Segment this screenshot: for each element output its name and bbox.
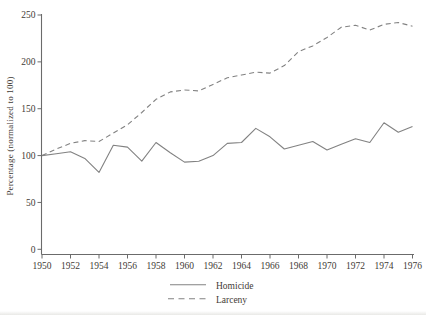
page-edge-artifact bbox=[0, 311, 426, 315]
y-tick-label: 50 bbox=[26, 198, 36, 208]
homicide-series-line bbox=[42, 123, 413, 173]
x-tick-label: 1976 bbox=[403, 261, 422, 271]
x-tick-label: 1952 bbox=[61, 261, 80, 271]
x-tick-label: 1958 bbox=[147, 261, 166, 271]
x-tick-label: 1960 bbox=[175, 261, 194, 271]
x-tick-label: 1950 bbox=[33, 261, 52, 271]
y-tick-label: 0 bbox=[31, 245, 36, 255]
x-tick-label: 1970 bbox=[318, 261, 337, 271]
y-tick-label: 250 bbox=[21, 10, 36, 20]
crime-trends-chart: 0501001502002501950195219541956195819601… bbox=[0, 0, 426, 315]
x-tick-label: 1972 bbox=[346, 261, 365, 271]
crime-figure: Percentage (normalized to 100) 050100150… bbox=[0, 0, 426, 315]
chart-legend: Homicide Larceny bbox=[168, 281, 253, 305]
x-tick-label: 1954 bbox=[90, 261, 109, 271]
x-tick-label: 1966 bbox=[261, 261, 280, 271]
series-layer bbox=[42, 23, 413, 173]
x-tick-label: 1974 bbox=[375, 261, 394, 271]
larceny-series-line bbox=[42, 23, 413, 156]
x-tick-label: 1968 bbox=[289, 261, 308, 271]
x-tick-label: 1956 bbox=[118, 261, 137, 271]
x-tick-label: 1962 bbox=[204, 261, 223, 271]
y-tick-label: 100 bbox=[21, 151, 36, 161]
x-tick-label: 1964 bbox=[232, 261, 251, 271]
y-tick-label: 150 bbox=[21, 104, 36, 114]
legend-label-larceny: Larceny bbox=[216, 295, 247, 305]
legend-label-homicide: Homicide bbox=[216, 281, 253, 291]
y-tick-label: 200 bbox=[21, 57, 36, 67]
